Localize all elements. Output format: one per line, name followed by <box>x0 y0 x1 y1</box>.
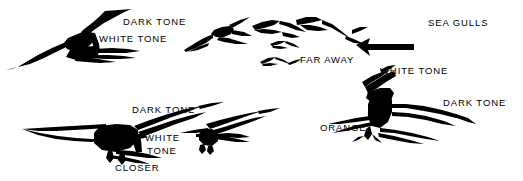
label-tone-center: TONE <box>147 146 177 156</box>
label-white-tone-upper-left: WHITE TONE <box>99 34 167 44</box>
gull-tiny-far-away-b <box>260 57 302 66</box>
label-sea-gulls: SEA GULLS <box>428 18 488 28</box>
label-dark-tone-upper-left: DARK TONE <box>123 17 186 27</box>
label-closer: CLOSER <box>115 163 159 173</box>
label-dark-tone-lower-left: DARK TONE <box>132 105 195 115</box>
label-white-center: WHITE <box>145 133 180 143</box>
label-white-tone-right: WHITE TONE <box>380 66 448 76</box>
gull-tiny-far-away-a <box>270 41 300 49</box>
gull-small-center-right-top <box>296 17 368 44</box>
label-far-away: FAR AWAY <box>300 55 354 65</box>
gull-arrow-silhouette <box>356 38 414 56</box>
label-orange: ORANGE <box>320 123 367 133</box>
gull-mid-upper-center-left <box>184 17 252 52</box>
sea-gulls-illustration: DARK TONE WHITE TONE SEA GULLS FAR AWAY … <box>0 0 523 181</box>
label-dark-tone-right: DARK TONE <box>443 98 506 108</box>
